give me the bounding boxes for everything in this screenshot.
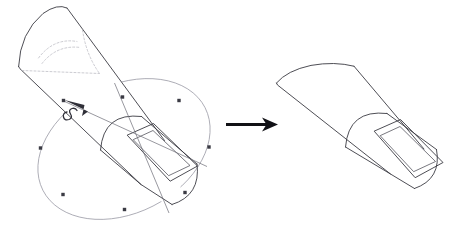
after-panel-hit-area[interactable] bbox=[272, 58, 450, 192]
before-panel-hit-area[interactable] bbox=[14, 4, 219, 220]
diagram-canvas: Sleeve rotation transformation Selected … bbox=[0, 0, 452, 227]
transition-arrow-hit-area bbox=[224, 114, 280, 136]
